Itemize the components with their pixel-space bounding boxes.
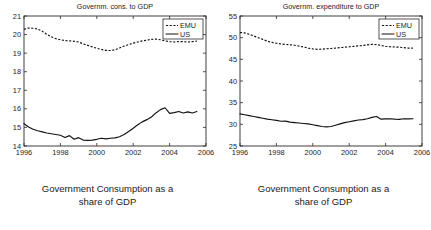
y-tick-label: 17 — [13, 86, 21, 95]
chart-title: Governm. expenditure to GDP — [283, 2, 380, 11]
y-tick-label: 40 — [229, 77, 237, 86]
y-tick-label: 55 — [229, 12, 237, 21]
legend-label-us: US — [180, 30, 190, 39]
chart-right: Governm. expenditure to GDP2530354045505… — [216, 0, 431, 168]
legend-label-us: US — [396, 30, 406, 39]
y-tick-label: 45 — [229, 55, 237, 64]
x-tick-label: 2000 — [89, 148, 105, 157]
caption-left-line2: share of GDP — [0, 195, 215, 208]
x-tick-label: 1996 — [232, 148, 248, 157]
x-tick-label: 2002 — [125, 148, 141, 157]
x-tick-label: 1998 — [268, 148, 284, 157]
x-tick-label: 2006 — [414, 148, 430, 157]
x-tick-label: 1996 — [16, 148, 32, 157]
x-tick-label: 2004 — [377, 148, 393, 157]
x-tick-label: 2004 — [161, 148, 177, 157]
chart-left-svg: Governm. cons. to GDP1415161718192021199… — [0, 0, 215, 168]
y-tick-label: 50 — [229, 33, 237, 42]
x-tick-label: 2000 — [305, 148, 321, 157]
caption-right-line1: Government Consumption as a — [216, 182, 431, 195]
series-line-us — [240, 114, 413, 127]
chart-panel-left: Governm. cons. to GDP1415161718192021199… — [0, 0, 215, 230]
x-tick-label: 1998 — [52, 148, 68, 157]
caption-left: Government Consumption as a share of GDP — [0, 182, 215, 208]
series-line-us — [24, 108, 197, 141]
figure-root: Governm. cons. to GDP1415161718192021199… — [0, 0, 431, 230]
caption-left-line1: Government Consumption as a — [0, 182, 215, 195]
x-tick-label: 2002 — [341, 148, 357, 157]
chart-right-render: Governm. expenditure to GDP2530354045505… — [229, 2, 430, 157]
chart-right-svg: Governm. expenditure to GDP2530354045505… — [216, 0, 431, 168]
x-tick-label: 2006 — [198, 148, 214, 157]
y-tick-label: 30 — [229, 120, 237, 129]
y-tick-label: 15 — [13, 123, 21, 132]
y-tick-label: 19 — [13, 49, 21, 58]
chart-title: Governm. cons. to GDP — [77, 2, 153, 11]
y-tick-label: 18 — [13, 67, 21, 76]
chart-left: Governm. cons. to GDP1415161718192021199… — [0, 0, 215, 168]
y-tick-label: 21 — [13, 12, 21, 21]
chart-panel-right: Governm. expenditure to GDP2530354045505… — [216, 0, 431, 230]
y-tick-label: 20 — [13, 30, 21, 39]
caption-right: Government Consumption as a share of GDP — [216, 182, 431, 208]
chart-left-render: Governm. cons. to GDP1415161718192021199… — [13, 2, 214, 157]
caption-right-line2: share of GDP — [216, 195, 431, 208]
y-tick-label: 16 — [13, 104, 21, 113]
y-tick-label: 35 — [229, 98, 237, 107]
